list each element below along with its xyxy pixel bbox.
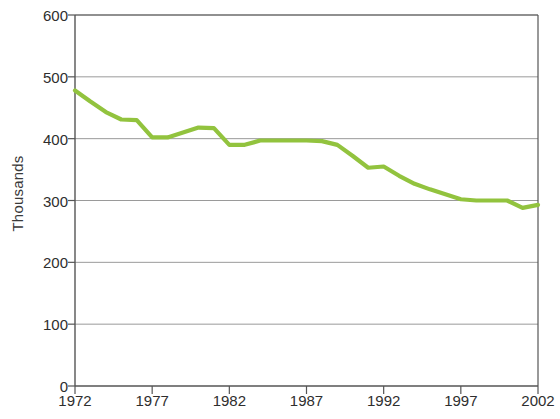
data-line-thousands [75,90,538,207]
plot-area [0,0,560,419]
line-chart-figure: Thousands 6005004003002001000 1972197719… [0,0,560,419]
